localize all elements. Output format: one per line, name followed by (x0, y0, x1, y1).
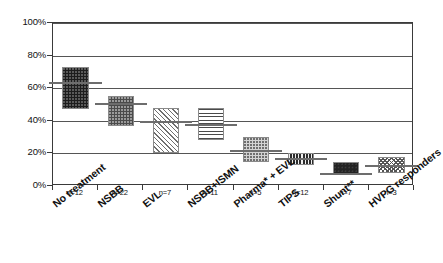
gridline (53, 88, 412, 89)
median-line (185, 124, 237, 126)
y-axis-tick-label: 60% (2, 81, 46, 92)
median-line (95, 103, 147, 105)
y-axis-tick-label: 40% (2, 114, 46, 125)
median-line (140, 121, 192, 123)
plot-area (52, 22, 413, 185)
box-bar (153, 108, 179, 154)
gridline (53, 23, 412, 24)
y-axis-tick-label: 100% (2, 16, 46, 27)
box-bar (108, 96, 134, 125)
median-line (230, 150, 282, 152)
x-axis-tick-mark (413, 185, 414, 190)
y-axis-tick-label: 0% (2, 179, 46, 190)
y-axis-tick-label: 20% (2, 146, 46, 157)
box-bar (62, 67, 88, 109)
median-line (320, 173, 372, 175)
median-line (49, 82, 101, 84)
gridline (53, 56, 412, 57)
y-axis-tick-label: 80% (2, 49, 46, 60)
gridline (53, 153, 412, 154)
